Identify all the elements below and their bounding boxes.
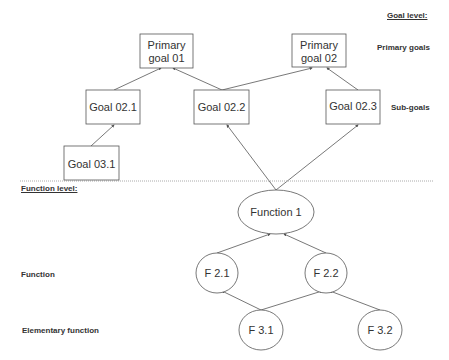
edge-g023-pg02 xyxy=(327,68,358,90)
f31-label: F 3.1 xyxy=(248,324,273,336)
edge-f31-f22 xyxy=(261,291,322,310)
pg01-line2: goal 01 xyxy=(148,52,184,64)
f22-label: F 2.2 xyxy=(313,267,338,279)
edge-f1-g023 xyxy=(276,125,358,190)
edge-f32-f22 xyxy=(330,291,380,310)
f21-label: F 2.1 xyxy=(204,267,229,279)
goal-function-diagram: Primary goal 01 Primary goal 02 Goal 02.… xyxy=(0,0,449,360)
function-label: Function xyxy=(21,270,55,279)
goal-level-heading: Goal level: xyxy=(387,11,427,20)
f1-label: Function 1 xyxy=(250,206,301,218)
g023-label: Goal 02.3 xyxy=(329,100,377,112)
edge-g021-pg01 xyxy=(114,68,161,90)
function-level-heading: Function level: xyxy=(21,184,77,193)
edge-g022-pg01 xyxy=(173,68,222,90)
edge-f22-f1 xyxy=(284,234,326,253)
pg02-line2: goal 02 xyxy=(301,52,337,64)
pg01-line1: Primary xyxy=(148,39,186,51)
edge-g031-g021 xyxy=(91,125,114,146)
g022-label: Goal 02.2 xyxy=(198,101,246,113)
edge-f21-f1 xyxy=(217,234,270,253)
sub-goals-label: Sub-goals xyxy=(391,103,430,112)
f32-label: F 3.2 xyxy=(367,324,392,336)
g031-label: Goal 03.1 xyxy=(68,158,116,170)
edge-g022-pg02 xyxy=(222,68,312,90)
elementary-function-label: Elementary function xyxy=(22,326,99,335)
edge-f1-g022 xyxy=(227,125,276,190)
g021-label: Goal 02.1 xyxy=(89,101,137,113)
pg02-line1: Primary xyxy=(300,39,338,51)
edge-f31-f21 xyxy=(222,291,261,310)
primary-goals-label: Primary goals xyxy=(377,43,430,52)
